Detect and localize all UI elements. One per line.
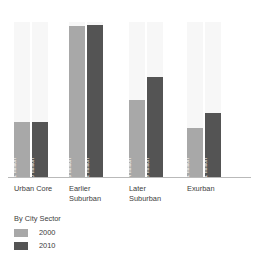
x-tick-label-later-suburban: Later Suburban bbox=[129, 184, 161, 203]
x-tick-label-earlier-suburban: Earlier Suburban bbox=[69, 184, 101, 203]
bar-2010-exurban[interactable]: 28.81 million bbox=[205, 113, 221, 177]
x-tick-label-exurban: Exurban bbox=[187, 184, 215, 194]
bar-group-exurban: 23.51 million 28.81 million bbox=[185, 0, 229, 182]
bar-chart: 34.61 million 34.40 million 70.83 millio… bbox=[0, 0, 255, 256]
bar-value-label: 40.49 million bbox=[147, 158, 155, 177]
bar-value-label: 28.81 million bbox=[205, 158, 213, 177]
x-tick-label-urban-core: Urban Core bbox=[14, 184, 52, 194]
bar-2010-urban-core[interactable]: 34.40 million bbox=[32, 122, 48, 177]
bar-value-label: 34.61 million bbox=[14, 158, 22, 177]
legend-title: By City Sector bbox=[14, 214, 134, 223]
legend-label-2010: 2010 bbox=[39, 241, 55, 250]
x-axis-line bbox=[8, 177, 251, 178]
bar-2010-earlier-suburban[interactable]: 71.42 million bbox=[87, 25, 103, 177]
legend: By City Sector 2000 2010 bbox=[14, 214, 134, 254]
legend-item-2000[interactable]: 2000 bbox=[14, 228, 134, 237]
x-axis-tick-labels: Urban Core Earlier Suburban Later Suburb… bbox=[0, 184, 255, 210]
bar-group-earlier-suburban: 70.83 million 71.42 million bbox=[67, 0, 111, 182]
bar-fill bbox=[69, 26, 85, 177]
bar-value-label: 70.83 million bbox=[69, 158, 77, 177]
bar-2000-urban-core[interactable]: 34.61 million bbox=[14, 122, 30, 177]
bar-value-label: 34.40 million bbox=[32, 158, 40, 177]
bar-2000-later-suburban[interactable]: 34.04 million bbox=[129, 100, 145, 177]
bar-group-later-suburban: 34.04 million 40.49 million bbox=[127, 0, 171, 182]
bar-2010-later-suburban[interactable]: 40.49 million bbox=[147, 77, 163, 177]
bar-2000-earlier-suburban[interactable]: 70.83 million bbox=[69, 26, 85, 177]
bar-value-label: 34.04 million bbox=[129, 158, 137, 177]
bar-value-label: 71.42 million bbox=[87, 158, 95, 177]
bar-2000-exurban[interactable]: 23.51 million bbox=[187, 128, 203, 177]
legend-item-2010[interactable]: 2010 bbox=[14, 241, 134, 250]
legend-swatch-2010 bbox=[14, 242, 28, 250]
bar-group-urban-core: 34.61 million 34.40 million bbox=[12, 0, 56, 182]
legend-label-2000: 2000 bbox=[39, 228, 55, 237]
bar-value-label: 23.51 million bbox=[187, 158, 195, 177]
plot-area: 34.61 million 34.40 million 70.83 millio… bbox=[0, 0, 255, 182]
bar-fill bbox=[87, 25, 103, 177]
legend-swatch-2000 bbox=[14, 229, 28, 237]
